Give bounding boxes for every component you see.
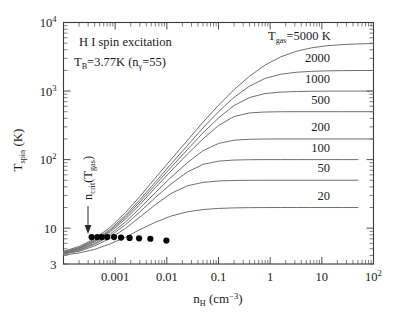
xlabel-unit: (cm (206, 291, 229, 306)
data-point (99, 234, 105, 240)
figure-background (0, 0, 402, 312)
figure-container: 310102103104 0.0010.010.1110102 20001000… (0, 0, 402, 312)
xlabel-unit-sup: −3 (229, 291, 238, 301)
data-point (163, 237, 169, 243)
x-tick-label: 0.001 (101, 270, 129, 284)
ncrit-sub2: gas (88, 160, 97, 171)
curve-label-500: 500 (311, 93, 330, 107)
ylabel-sub: spin (18, 150, 27, 164)
legend-t-eq: =5000 K (287, 29, 331, 43)
title-end: =55) (142, 55, 166, 69)
data-point (104, 234, 110, 240)
curve-label-50: 50 (318, 161, 331, 175)
x-tick-label: 0.01 (156, 270, 178, 284)
y-tick-label: 10 (44, 222, 57, 236)
x-tick-label: 0.1 (211, 270, 227, 284)
curve-label-100: 100 (311, 141, 330, 155)
data-point (136, 235, 142, 241)
legend-t-sub: gas (276, 36, 287, 45)
x-tick-label: 1 (267, 270, 273, 284)
curve-label-20: 20 (318, 189, 331, 203)
ylabel-t: T (10, 163, 25, 171)
y-axis-title: Tspin (K) (10, 129, 27, 172)
data-point (147, 236, 153, 242)
ncrit-sub: crit (88, 182, 97, 194)
y-tick-label: 3 (50, 258, 56, 272)
data-point (111, 234, 117, 240)
ncrit-close: ) (81, 156, 95, 160)
ncrit-open: (T (81, 171, 95, 183)
curve-label-1000: 1000 (305, 72, 330, 86)
x-tick-label: 10 (316, 270, 329, 284)
data-point (126, 235, 132, 241)
spin-temperature-plot: 310102103104 0.0010.010.1110102 20001000… (0, 0, 402, 312)
curve-label-200: 200 (311, 120, 330, 134)
data-point (118, 234, 124, 240)
xlabel-unit-close: ) (238, 291, 242, 306)
data-point (89, 234, 95, 240)
ylabel-unit: (K) (10, 129, 25, 150)
title-line-2: TB=3.77K (nγ=55) (74, 55, 166, 71)
title-mid: =3.77K (n (87, 55, 139, 69)
curve-label-2000: 2000 (305, 51, 330, 65)
title-line-1: H I spin excitation (79, 35, 172, 49)
